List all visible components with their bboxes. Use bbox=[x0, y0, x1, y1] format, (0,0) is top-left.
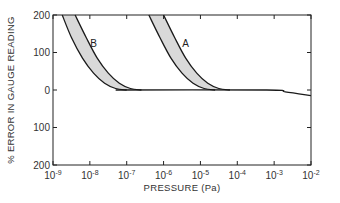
series-label-B: B bbox=[90, 38, 97, 49]
error-vs-pressure-chart: 10-910-810-710-610-510-410-310-2 2001000… bbox=[0, 0, 340, 203]
x-tick-label: 10-3 bbox=[265, 169, 282, 181]
band-fill-A bbox=[149, 15, 230, 90]
x-tick-label: 10-7 bbox=[118, 169, 135, 181]
series-label-A: A bbox=[182, 38, 189, 49]
x-tick-label: 10-4 bbox=[229, 169, 246, 181]
y-tick-label: 0 bbox=[44, 85, 50, 96]
y-tick-label: 100 bbox=[33, 47, 50, 58]
x-tick-label: 10-9 bbox=[44, 169, 61, 181]
y-tick-label: 200 bbox=[33, 10, 50, 21]
x-tick-label: 10-8 bbox=[81, 169, 98, 181]
x-tick-label: 10-2 bbox=[302, 169, 319, 181]
y-tick-label: 200 bbox=[33, 160, 50, 171]
x-tick-label: 10-5 bbox=[192, 169, 209, 181]
zero-baseline bbox=[116, 90, 311, 96]
band-fill-B bbox=[62, 15, 141, 90]
x-tick-label: 10-6 bbox=[155, 169, 172, 181]
baseline-line bbox=[116, 90, 311, 96]
y-tick-label: 100 bbox=[33, 122, 50, 133]
y-axis-title: % ERROR IN GAUGE READING bbox=[5, 16, 16, 164]
shaded-bands bbox=[62, 15, 230, 90]
x-axis-title: PRESSURE (Pa) bbox=[144, 182, 221, 193]
